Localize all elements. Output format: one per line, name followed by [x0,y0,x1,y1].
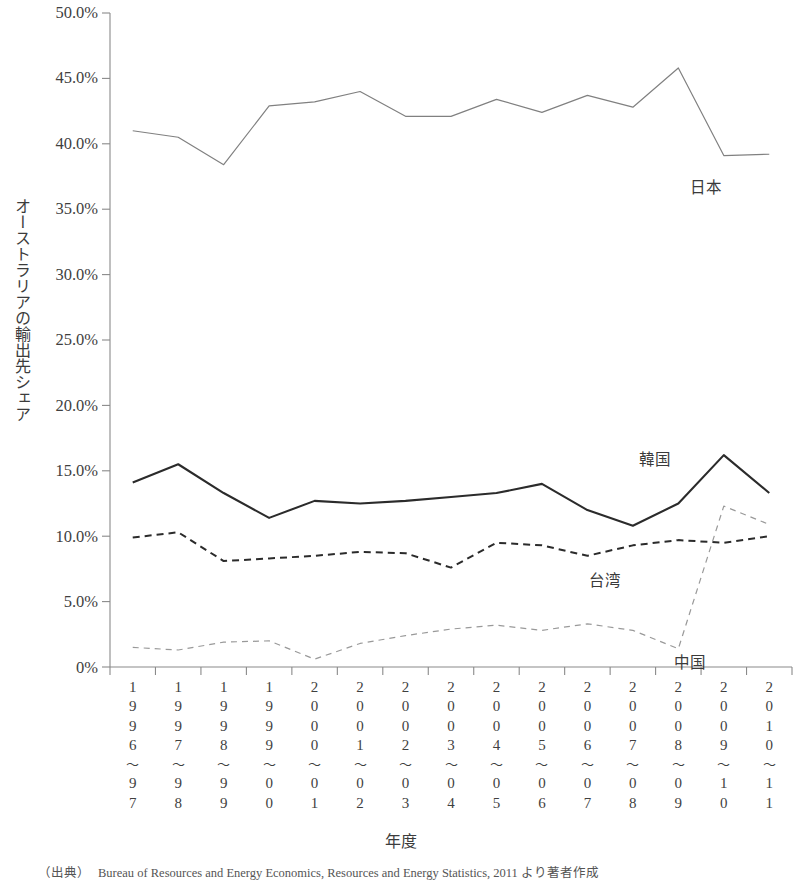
x-tick-digit: 1 [304,794,326,813]
x-tick-digit: 1 [167,678,189,697]
x-tick-digit: 0 [667,717,689,736]
x-tick-digit: 0 [758,697,780,716]
x-tick-digit: ～ [122,755,144,774]
x-tick-digit: 2 [485,678,507,697]
x-tick-digit: 0 [713,794,735,813]
x-tick-digit: 0 [667,774,689,793]
x-tick-digit: 2 [304,678,326,697]
x-tick-digit: 8 [622,794,644,813]
x-tick-digit: 8 [167,794,189,813]
x-tick-digit: 2 [395,736,417,755]
x-tick-digit: 1 [122,678,144,697]
series-paths [133,68,770,659]
x-tick-digit: 6 [531,794,553,813]
x-tick-digit: 0 [440,697,462,716]
x-tick-digit: 0 [304,717,326,736]
x-tick-digit: 1 [758,794,780,813]
x-tick-digit: 0 [440,717,462,736]
x-tick-digit: 2 [622,678,644,697]
x-tick-digit: 0 [258,794,280,813]
x-tick-digit: 2 [349,794,371,813]
x-axis-title: 年度 [0,828,802,852]
x-tick-digit: ～ [258,755,280,774]
x-tick-digit: 5 [485,794,507,813]
x-tick-digit: 0 [349,774,371,793]
x-tick-digit: 9 [167,697,189,716]
x-tick-digit: 0 [713,717,735,736]
x-tick-digit: 0 [258,774,280,793]
x-tick-digit: 0 [531,774,553,793]
x-tick-label-2006~07: 2006～07 [576,678,598,813]
x-tick-label-2010~11: 2010～11 [758,678,780,813]
x-tick-digit: 0 [622,774,644,793]
x-tick-digit: 0 [758,736,780,755]
source-text: Bureau of Resources and Energy Economics… [98,866,599,880]
x-tick-digit: 4 [440,794,462,813]
x-tick-digit: ～ [531,755,553,774]
x-tick-digit: 7 [622,736,644,755]
series-line-1 [133,455,770,526]
x-tick-digit: 8 [667,736,689,755]
x-tick-digit: ～ [304,755,326,774]
x-tick-digit: 0 [667,697,689,716]
x-tick-label-2002~03: 2002～03 [395,678,417,813]
x-tick-digit: 0 [440,774,462,793]
x-tick-digit: 1 [713,774,735,793]
x-tick-digit: 8 [213,736,235,755]
series-line-0 [133,68,770,165]
x-tick-label-2009~10: 2009～10 [713,678,735,813]
x-tick-digit: 1 [258,678,280,697]
series-line-3 [133,506,770,659]
source-footnote: （出典）Bureau of Resources and Energy Econo… [38,862,599,881]
x-tick-label-2003~04: 2003～04 [440,678,462,813]
x-tick-digit: 2 [349,678,371,697]
x-tick-digit: 9 [213,717,235,736]
x-tick-digit: ～ [576,755,598,774]
x-tick-label-1996~97: 1996～97 [122,678,144,813]
x-tick-digit: 0 [304,774,326,793]
x-tick-label-1999~00: 1999～00 [258,678,280,813]
x-tick-digit: ～ [758,755,780,774]
x-tick-digit: 2 [440,678,462,697]
series-label-韓国: 韓国 [639,447,671,469]
x-tick-digit: 0 [395,717,417,736]
x-tick-digit: 0 [622,717,644,736]
source-prefix: （出典） [38,865,90,880]
x-tick-label-2005~06: 2005～06 [531,678,553,813]
x-tick-digit: 0 [349,717,371,736]
x-tick-digit: 0 [531,717,553,736]
x-tick-digit: 0 [531,697,553,716]
x-tick-label-2001~02: 2001～02 [349,678,371,813]
x-tick-digit: 9 [122,697,144,716]
series-label-日本: 日本 [690,175,722,197]
x-tick-digit: 9 [213,774,235,793]
x-tick-digit: 6 [122,736,144,755]
x-tick-digit: 9 [213,794,235,813]
x-tick-digit: 0 [395,697,417,716]
series-line-2 [133,532,770,567]
x-tick-digit: 0 [713,697,735,716]
x-tick-digit: ～ [349,755,371,774]
x-tick-digit: 0 [349,697,371,716]
x-tick-digit: 9 [667,794,689,813]
x-tick-digit: 3 [395,794,417,813]
x-tick-digit: 1 [213,678,235,697]
x-tick-digit: 5 [531,736,553,755]
x-tick-digit: 0 [304,736,326,755]
x-tick-digit: 6 [576,736,598,755]
x-tick-digit: 0 [622,697,644,716]
x-tick-digit: 0 [485,717,507,736]
x-tick-digit: 7 [576,794,598,813]
x-tick-digit: 9 [258,717,280,736]
x-tick-digit: ～ [213,755,235,774]
x-tick-digit: ～ [713,755,735,774]
x-tick-label-2000~01: 2000～01 [304,678,326,813]
x-tick-label-1998~99: 1998～99 [213,678,235,813]
x-tick-digit: 2 [531,678,553,697]
x-tick-digit: 2 [395,678,417,697]
x-tick-digit: ～ [167,755,189,774]
x-tick-digit: 0 [304,697,326,716]
x-tick-digit: 0 [395,774,417,793]
x-tick-digit: 9 [258,697,280,716]
